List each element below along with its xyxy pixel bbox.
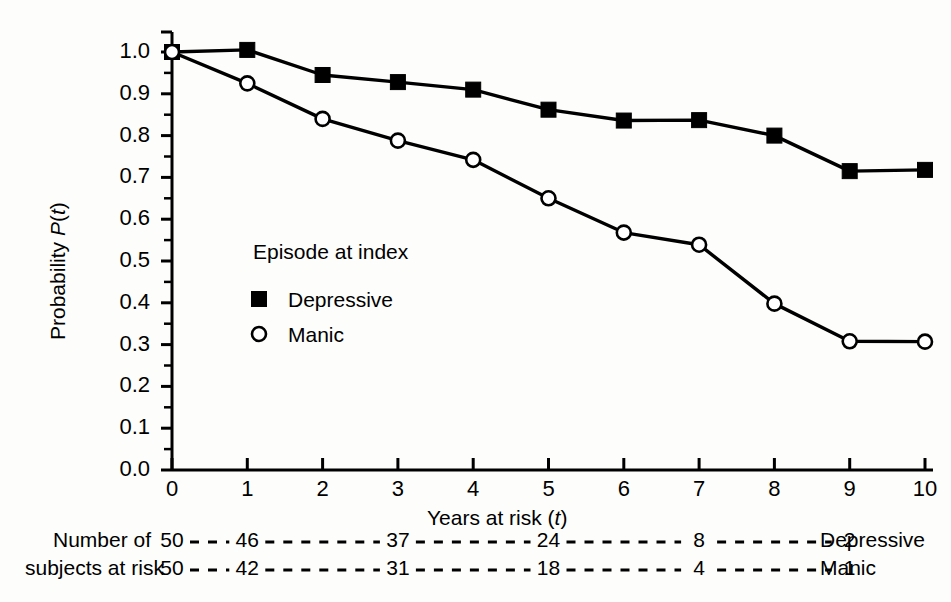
x-tick-label: 6 (604, 476, 644, 502)
risk-table-dashed-lines (190, 542, 832, 570)
x-tick-label: 5 (529, 476, 569, 502)
risk-table-cell: 42 (224, 556, 270, 580)
x-tick-label: 2 (303, 476, 343, 502)
x-axis-title-paren-close: ) (560, 506, 567, 529)
x-tick-label: 7 (679, 476, 719, 502)
y-axis-title-text: Probability (46, 236, 69, 340)
risk-table-caption-line2: subjects at risk (25, 556, 164, 580)
y-tick-label: 0.8 (94, 122, 150, 148)
risk-table-cell: 4 (676, 556, 722, 580)
y-tick-label: 0.1 (94, 414, 150, 440)
risk-table-cell: 18 (526, 556, 572, 580)
risk-row-label-depressive: Depressive (820, 528, 925, 552)
risk-table-cell: 37 (375, 528, 421, 552)
risk-table-cell: 50 (149, 528, 195, 552)
y-tick-label: 0.6 (94, 205, 150, 231)
x-axis-title-text: Years at risk ( (427, 506, 555, 529)
x-tick-label: 8 (754, 476, 794, 502)
legend-label-depressive: Depressive (288, 288, 393, 312)
risk-table-cell: 24 (526, 528, 572, 552)
risk-row-label-manic: Manic (820, 556, 876, 580)
y-tick-label: 0.3 (94, 331, 150, 357)
risk-table-cell: 8 (676, 528, 722, 552)
x-axis-title: Years at risk (t) (427, 506, 567, 530)
x-tick-label: 1 (227, 476, 267, 502)
y-axis-title-symbol-t: t (46, 209, 69, 215)
risk-table-cell: 31 (375, 556, 421, 580)
x-tick-label: 3 (378, 476, 418, 502)
y-axis-title-symbol-p: P (46, 222, 69, 236)
y-tick-label: 0.2 (94, 372, 150, 398)
y-axis-title-paren-open: ( (46, 215, 69, 222)
legend-title: Episode at index (253, 240, 408, 264)
y-axis-title-paren-close: ) (46, 202, 69, 209)
data-series-group (165, 42, 933, 348)
y-tick-label: 0.9 (94, 80, 150, 106)
risk-table-caption-line1: Number of (53, 528, 151, 552)
figure-kaplan-meier-survival-chart: 0.00.10.20.30.40.50.60.70.80.91.0 012345… (0, 0, 951, 602)
x-tick-label: 10 (905, 476, 945, 502)
risk-table-cell: 50 (149, 556, 195, 580)
y-tick-label: 0.4 (94, 289, 150, 315)
x-tick-label: 0 (152, 476, 192, 502)
risk-table-cell: 46 (224, 528, 270, 552)
x-tick-label: 4 (453, 476, 493, 502)
legend-markers (252, 292, 267, 342)
y-tick-label: 0.0 (94, 456, 150, 482)
y-axis-title: Probability P(t) (46, 202, 70, 340)
y-tick-label: 0.5 (94, 247, 150, 273)
y-tick-label: 1.0 (94, 38, 150, 64)
x-tick-label: 9 (830, 476, 870, 502)
y-tick-label: 0.7 (94, 163, 150, 189)
legend-label-manic: Manic (288, 323, 344, 347)
